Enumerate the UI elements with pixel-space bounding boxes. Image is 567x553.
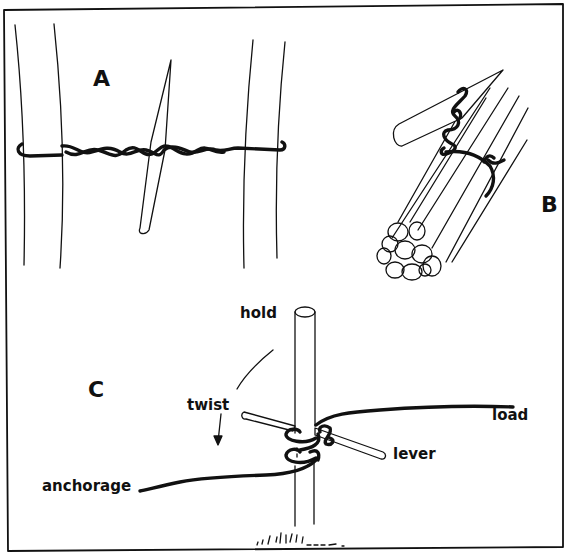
panel-a: A xyxy=(15,24,285,268)
hold-label: hold xyxy=(240,304,277,322)
panel-c: C hold twist load lever anchorage xyxy=(42,304,528,546)
panel-c-label: C xyxy=(88,377,104,402)
lever-label: lever xyxy=(393,445,436,463)
ground-grass xyxy=(257,533,344,546)
panel-a-label: A xyxy=(93,66,110,91)
load-label: load xyxy=(492,406,528,424)
twist-label: twist xyxy=(187,396,229,414)
load-wire[interactable] xyxy=(316,406,513,425)
twist-arrow-head xyxy=(214,436,222,445)
right-pole-edge-inner xyxy=(243,40,253,268)
diagram-canvas: A xyxy=(0,0,567,553)
anchorage-wire[interactable] xyxy=(140,460,316,491)
panel-b-label: B xyxy=(541,192,558,217)
panel-b: B xyxy=(377,70,558,280)
post xyxy=(257,307,344,546)
hold-pointer-line xyxy=(237,350,273,389)
anchorage-label: anchorage xyxy=(42,477,131,495)
